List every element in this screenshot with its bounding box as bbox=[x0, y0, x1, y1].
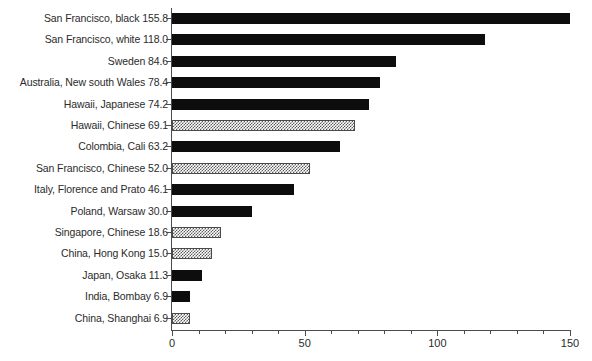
bar-category-label: Italy, Florence and Prato 46.1 bbox=[0, 179, 168, 200]
y-axis-tick bbox=[166, 82, 172, 83]
bar-category-label: Japan, Osaka 11.3 bbox=[0, 265, 168, 286]
x-axis-tick-label: 150 bbox=[550, 337, 590, 349]
x-axis-minor-tick bbox=[358, 330, 359, 334]
x-axis-minor-tick bbox=[225, 330, 226, 334]
bar bbox=[172, 313, 190, 324]
table-row: Poland, Warsaw 30.0 bbox=[0, 201, 592, 222]
bar-category-label: Singapore, Chinese 18.6 bbox=[0, 222, 168, 243]
bar-category-label: Hawaii, Japanese 74.2 bbox=[0, 94, 168, 115]
y-axis-tick bbox=[166, 275, 172, 276]
x-axis-major-tick bbox=[305, 330, 306, 336]
x-axis-line bbox=[171, 330, 571, 331]
x-axis-tick-label: 100 bbox=[417, 337, 457, 349]
bar bbox=[172, 270, 202, 281]
bar-category-label: Australia, New south Wales 78.4 bbox=[0, 72, 168, 93]
y-axis-tick bbox=[166, 189, 172, 190]
bar-category-label: Colombia, Cali 63.2 bbox=[0, 136, 168, 157]
x-axis-minor-tick bbox=[199, 330, 200, 334]
bar-category-label: San Francisco, black 155.8 bbox=[0, 8, 168, 29]
table-row: Australia, New south Wales 78.4 bbox=[0, 72, 592, 93]
x-axis-major-tick bbox=[172, 330, 173, 336]
table-row: China, Shanghai 6.9 bbox=[0, 308, 592, 329]
y-axis-tick bbox=[166, 168, 172, 169]
bar-category-label: India, Bombay 6.9 bbox=[0, 286, 168, 307]
table-row: India, Bombay 6.9 bbox=[0, 286, 592, 307]
x-axis-major-tick bbox=[437, 330, 438, 336]
bar bbox=[172, 291, 190, 302]
bar bbox=[172, 163, 310, 174]
table-row: Sweden 84.6 bbox=[0, 51, 592, 72]
y-axis-tick bbox=[166, 232, 172, 233]
table-row: Singapore, Chinese 18.6 bbox=[0, 222, 592, 243]
y-axis-tick bbox=[166, 104, 172, 105]
y-axis-tick bbox=[166, 18, 172, 19]
x-axis-tick-label: 50 bbox=[285, 337, 325, 349]
table-row: San Francisco, black 155.8 bbox=[0, 8, 592, 29]
y-axis-tick bbox=[166, 318, 172, 319]
bar bbox=[172, 227, 221, 238]
bar bbox=[172, 141, 340, 152]
bar bbox=[172, 56, 396, 67]
y-axis-tick bbox=[166, 296, 172, 297]
x-axis-minor-tick bbox=[331, 330, 332, 334]
table-row: Japan, Osaka 11.3 bbox=[0, 265, 592, 286]
y-axis-tick bbox=[166, 61, 172, 62]
table-row: China, Hong Kong 15.0 bbox=[0, 243, 592, 264]
y-axis-tick bbox=[166, 211, 172, 212]
bar bbox=[172, 34, 485, 45]
x-axis-minor-tick bbox=[411, 330, 412, 334]
table-row: Italy, Florence and Prato 46.1 bbox=[0, 179, 592, 200]
x-axis-minor-tick bbox=[252, 330, 253, 334]
x-axis-tick-label: 0 bbox=[152, 337, 192, 349]
table-row: Colombia, Cali 63.2 bbox=[0, 136, 592, 157]
bar-category-label: San Francisco, white 118.0 bbox=[0, 29, 168, 50]
x-axis-minor-tick bbox=[384, 330, 385, 334]
x-axis-minor-tick bbox=[464, 330, 465, 334]
bar-category-label: China, Hong Kong 15.0 bbox=[0, 243, 168, 264]
table-row: San Francisco, white 118.0 bbox=[0, 29, 592, 50]
bar bbox=[172, 13, 570, 24]
bar bbox=[172, 120, 355, 131]
bar-category-label: Poland, Warsaw 30.0 bbox=[0, 201, 168, 222]
bar bbox=[172, 184, 294, 195]
y-axis-tick bbox=[166, 253, 172, 254]
x-axis-major-tick bbox=[570, 330, 571, 336]
bar-category-label: San Francisco, Chinese 52.0 bbox=[0, 158, 168, 179]
bar-chart: San Francisco, black 155.8San Francisco,… bbox=[0, 0, 592, 361]
bar bbox=[172, 248, 212, 259]
bar bbox=[172, 77, 380, 88]
table-row: Hawaii, Japanese 74.2 bbox=[0, 94, 592, 115]
y-axis-tick bbox=[166, 146, 172, 147]
x-axis-minor-tick bbox=[543, 330, 544, 334]
y-axis-tick bbox=[166, 39, 172, 40]
bar-category-label: Sweden 84.6 bbox=[0, 51, 168, 72]
bar bbox=[172, 206, 252, 217]
bar-category-label: Hawaii, Chinese 69.1 bbox=[0, 115, 168, 136]
bar bbox=[172, 99, 369, 110]
x-axis-minor-tick bbox=[278, 330, 279, 334]
x-axis-minor-tick bbox=[490, 330, 491, 334]
x-axis-minor-tick bbox=[517, 330, 518, 334]
table-row: Hawaii, Chinese 69.1 bbox=[0, 115, 592, 136]
table-row: San Francisco, Chinese 52.0 bbox=[0, 158, 592, 179]
y-axis-tick bbox=[166, 125, 172, 126]
bar-category-label: China, Shanghai 6.9 bbox=[0, 308, 168, 329]
